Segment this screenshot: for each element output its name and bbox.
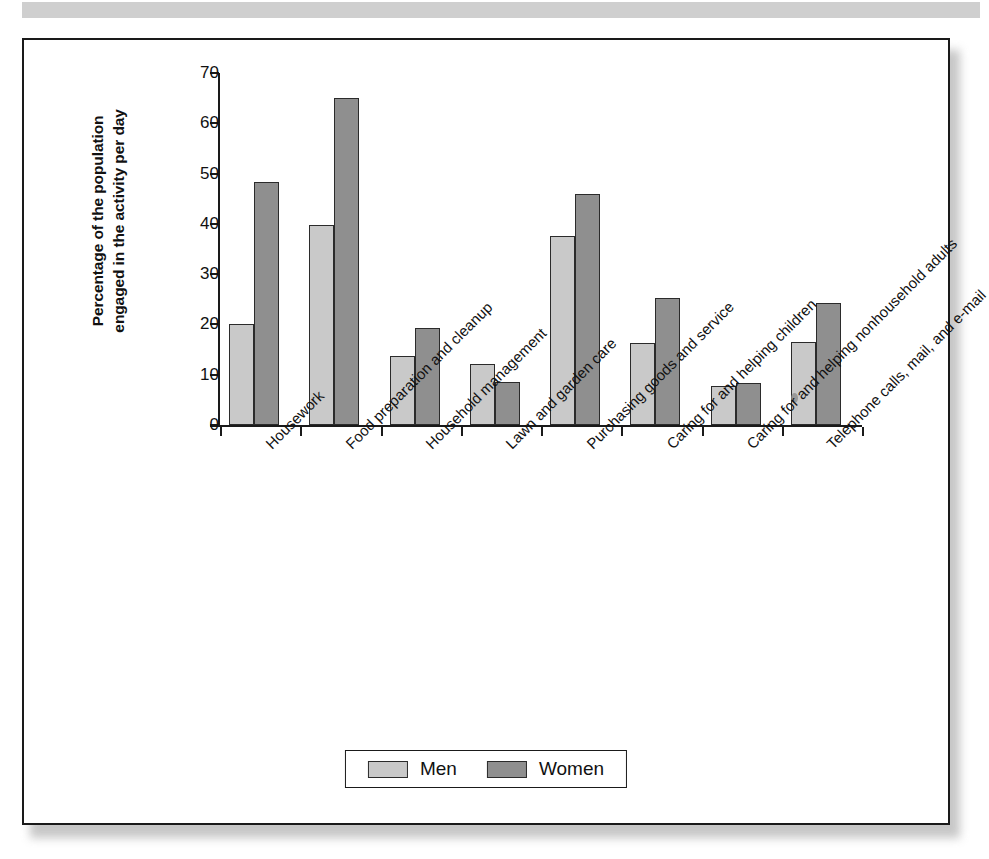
- bar-women-6: [736, 383, 761, 425]
- x-tick-mark: [381, 427, 383, 436]
- x-tick-mark: [782, 427, 784, 436]
- bars-layer: [220, 73, 862, 425]
- chart-legend: Men Women: [345, 750, 627, 788]
- y-tick-label: 20: [173, 314, 219, 334]
- x-tick-mark: [220, 427, 222, 436]
- scan-artifact-band: [22, 2, 980, 18]
- figure-frame: Percentage of the population engaged in …: [22, 38, 950, 825]
- x-tick-mark: [300, 427, 302, 436]
- legend-swatch-women: [487, 761, 527, 778]
- y-tick-label: 70: [173, 63, 219, 83]
- bar-women-3: [495, 382, 520, 425]
- legend-swatch-men: [368, 761, 408, 778]
- y-tick-label: 50: [173, 164, 219, 184]
- bar-women-4: [575, 194, 600, 425]
- x-tick-mark: [541, 427, 543, 436]
- y-tick-label: 0: [173, 415, 219, 435]
- y-tick-label: 60: [173, 113, 219, 133]
- y-tick-label: 30: [173, 264, 219, 284]
- bar-women-1: [334, 98, 359, 425]
- x-tick-mark: [862, 427, 864, 436]
- bar-men-0: [229, 324, 254, 425]
- plot-area: Percentage of the population engaged in …: [24, 40, 948, 823]
- x-tick-mark: [702, 427, 704, 436]
- x-tick-mark: [461, 427, 463, 436]
- legend-item-women: Women: [487, 758, 604, 780]
- legend-label-men: Men: [420, 758, 457, 780]
- y-tick-label: 40: [173, 214, 219, 234]
- bar-women-0: [254, 182, 279, 425]
- y-axis-label: Percentage of the population engaged in …: [88, 71, 130, 371]
- y-axis-label-line1: Percentage of the population: [89, 116, 106, 327]
- x-tick-mark: [621, 427, 623, 436]
- y-tick-label: 10: [173, 365, 219, 385]
- legend-label-women: Women: [539, 758, 604, 780]
- y-axis-label-line2: engaged in the activity per day: [109, 71, 130, 371]
- legend-item-men: Men: [368, 758, 457, 780]
- x-axis-category-labels: HouseworkFood preparation and cleanupHou…: [220, 436, 880, 696]
